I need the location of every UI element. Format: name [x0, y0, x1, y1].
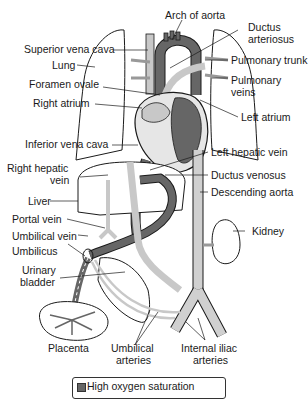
label-inferior-vena-cava: Inferior vena cava — [25, 139, 108, 150]
label-ductus-arteriosus-2: arteriosus — [248, 34, 294, 45]
label-umbilical-arteries: Umbilical — [111, 343, 154, 354]
label-urinary-bladder-2: bladder — [20, 277, 55, 288]
label-descending-aorta: Descending aorta — [211, 187, 293, 198]
label-left-hepatic-vein: Left hepatic vein — [211, 147, 287, 158]
label-kidney: Kidney — [252, 226, 284, 237]
label-pulmonary-trunk: Pulmonary trunk — [231, 55, 307, 66]
label-placenta: Placenta — [48, 343, 89, 354]
legend-label-high-oxygen: High oxygen saturation — [87, 380, 194, 392]
label-liver: Liver — [28, 196, 51, 207]
label-arch-of-aorta: Arch of aorta — [165, 10, 225, 21]
label-left-atrium: Left atrium — [241, 112, 291, 123]
label-internal-iliac-arteries: Internal iliac — [181, 343, 237, 354]
label-right-atrium: Right atrium — [33, 98, 90, 109]
label-urinary-bladder: Urinary — [22, 265, 56, 276]
label-internal-iliac-arteries-2: arteries — [193, 355, 228, 366]
superior-vena-cava — [146, 34, 154, 94]
label-portal-vein: Portal vein — [12, 214, 62, 225]
label-superior-vena-cava: Superior vena cava — [24, 44, 114, 55]
label-ductus-venosus: Ductus venosus — [211, 170, 286, 181]
legend: High oxygen saturation — [72, 377, 226, 399]
label-foramen-ovale: Foramen ovale — [29, 79, 99, 90]
label-umbilical-vein: Umbilical vein — [12, 231, 77, 242]
label-lung: Lung — [52, 60, 75, 71]
label-right-hepatic-vein-2: vein — [50, 175, 69, 186]
label-pulmonary-veins: Pulmonary — [231, 75, 281, 86]
kidney — [212, 220, 240, 264]
label-pulmonary-veins-2: veins — [231, 87, 256, 98]
label-umbilical-arteries-2: arteries — [116, 355, 151, 366]
label-right-hepatic-vein: Right hepatic — [7, 163, 68, 174]
label-ductus-arteriosus: Ductus — [248, 22, 281, 33]
legend-swatch-high-oxygen — [77, 383, 86, 392]
label-umbilicus: Umbilicus — [12, 246, 58, 257]
